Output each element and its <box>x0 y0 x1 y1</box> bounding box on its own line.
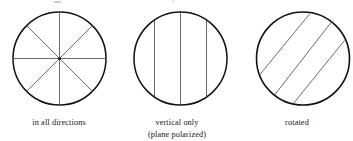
caption-vertical-only: vertical only (plane polarized) <box>118 117 236 140</box>
panel-rotated[interactable]: rotated <box>238 0 353 141</box>
caption-line: vertical only <box>118 117 236 129</box>
panel-vertical-only[interactable]: vertical only (plane polarized) <box>118 0 236 141</box>
circle-radial-spokes-icon <box>0 0 118 112</box>
disc-vertical-only <box>118 0 236 112</box>
disc-rotated <box>238 0 353 112</box>
caption-line: rotated <box>238 117 353 129</box>
caption-rotated: rotated <box>238 117 353 129</box>
circle-vertical-lines-icon <box>118 0 236 112</box>
caption-line-sub: (plane polarized) <box>118 129 236 141</box>
caption-in-all-directions: in all directions <box>0 117 118 129</box>
disc-in-all-directions <box>0 0 118 112</box>
circle-diagonal-lines-icon <box>238 0 353 112</box>
panel-in-all-directions[interactable]: in all directions <box>0 0 118 141</box>
polarization-diagram: in all directions vertical only (plane p… <box>0 0 353 141</box>
caption-line: in all directions <box>0 117 118 129</box>
